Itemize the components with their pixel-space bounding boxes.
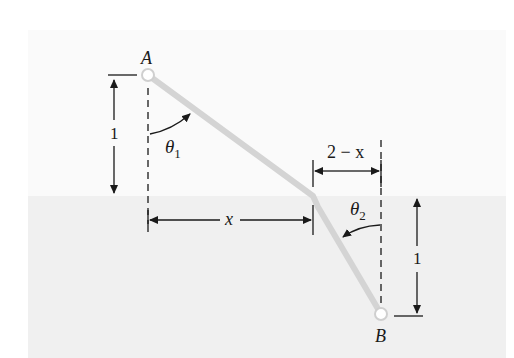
right-height-label: 1: [413, 249, 422, 268]
theta1-label: θ1: [165, 136, 181, 161]
diagram-canvas: 1 1 x 2 − x θ1 θ2 A B: [0, 0, 514, 358]
theta2-arc: [343, 225, 380, 237]
point-b-marker: [375, 308, 387, 320]
point-a-marker: [142, 69, 154, 81]
point-b-label: B: [375, 326, 386, 346]
two-minus-x-label: 2 − x: [327, 142, 364, 162]
light-path: [148, 75, 381, 314]
point-a-label: A: [140, 48, 153, 68]
x-dimension-label: x: [224, 209, 233, 229]
theta1-arc: [150, 114, 190, 134]
theta2-label: θ2: [350, 198, 366, 223]
left-height-label: 1: [110, 124, 119, 143]
two-minus-x-dimension: [313, 160, 381, 187]
